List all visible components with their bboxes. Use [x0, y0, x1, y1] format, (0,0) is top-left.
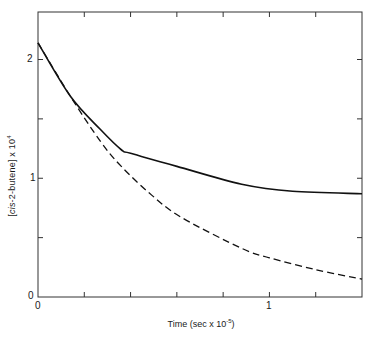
y-tick-label-0: 0	[28, 290, 34, 301]
y-axis-label: [cis-2-butene] x 104	[6, 135, 17, 216]
data-lines	[38, 43, 362, 279]
line-chart	[0, 0, 374, 346]
axis-ticks	[38, 12, 362, 297]
x-tick-label-1: 1	[266, 300, 272, 311]
y-tick-label-1: 1	[30, 172, 36, 183]
x-axis-label: Time (sec x 10-5)	[167, 318, 234, 329]
y-tick-label-2: 2	[27, 53, 33, 64]
solid-line	[38, 43, 362, 194]
dashed-line	[38, 43, 362, 279]
plot-frame	[38, 12, 362, 297]
x-tick-label-0: 0	[35, 300, 41, 311]
